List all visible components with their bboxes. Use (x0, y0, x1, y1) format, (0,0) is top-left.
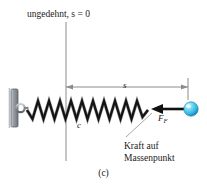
force-caption-line-2: Massenpunkt (124, 152, 175, 164)
label-force-caption: Kraft auf Massenpunkt (124, 140, 175, 165)
mass-point-ball (184, 102, 198, 116)
label-force-symbol: FF (158, 113, 167, 124)
spring-coil (27, 101, 148, 119)
dimension-arrow-right (181, 85, 188, 90)
label-unstretched: ungedehnt, s = 0 (27, 9, 90, 20)
force-symbol-subscript: F (164, 117, 168, 124)
label-displacement-s: s (123, 80, 127, 90)
dimension-arrow-left (66, 85, 73, 90)
diagram-canvas (0, 0, 207, 191)
figure-part-caption: (c) (0, 168, 207, 179)
label-spring-constant-c: c (77, 120, 81, 130)
ball-highlight-icon (186, 105, 191, 108)
force-caption-line-1: Kraft auf (124, 140, 175, 152)
spring-force-diagram: ungedehnt, s = 0 s c FF Kraft auf Massen… (0, 0, 207, 191)
